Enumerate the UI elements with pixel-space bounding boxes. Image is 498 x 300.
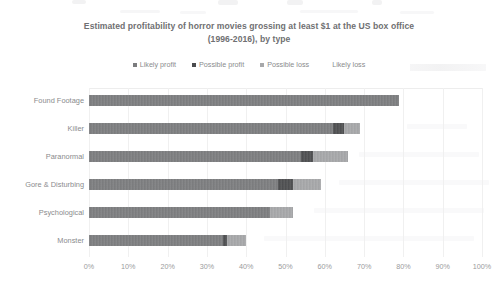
legend-swatch-icon bbox=[133, 63, 137, 67]
bar-segment-possible-profit[interactable] bbox=[278, 179, 294, 190]
bar-segment-likely-profit[interactable] bbox=[89, 235, 223, 246]
chart-title: Estimated profitability of horror movies… bbox=[20, 20, 478, 45]
gridline bbox=[246, 88, 247, 257]
chart-title-line-1: Estimated profitability of horror movies… bbox=[84, 21, 414, 31]
bar-segment-likely-profit[interactable] bbox=[89, 207, 270, 218]
legend-label: Possible loss bbox=[267, 60, 309, 69]
bar-segment-possible-loss[interactable] bbox=[344, 123, 360, 134]
legend-swatch-icon bbox=[192, 63, 196, 67]
x-tick-label: 50% bbox=[278, 262, 292, 271]
bar-segment-likely-profit[interactable] bbox=[89, 95, 399, 106]
x-tick-label: 100% bbox=[473, 262, 491, 271]
bar-segment-likely-profit[interactable] bbox=[89, 151, 301, 162]
bar-segment-possible-loss[interactable] bbox=[227, 235, 247, 246]
bar-segment-possible-loss[interactable] bbox=[270, 207, 294, 218]
gridline bbox=[364, 88, 365, 257]
bar-segment-possible-profit[interactable] bbox=[333, 123, 345, 134]
bar-segment-likely-profit[interactable] bbox=[89, 123, 333, 134]
bar-row[interactable] bbox=[89, 179, 321, 190]
plot-area bbox=[89, 88, 482, 257]
legend-label: Likely profit bbox=[140, 60, 176, 69]
bar-row[interactable] bbox=[89, 235, 246, 246]
bar-row[interactable] bbox=[89, 95, 399, 106]
gridline bbox=[286, 88, 287, 257]
gridline bbox=[482, 88, 483, 257]
gridline bbox=[403, 88, 404, 257]
gridline bbox=[89, 88, 90, 257]
x-tick-label: 80% bbox=[396, 262, 410, 271]
category-label-gore-disturbing: Gore & Disturbing bbox=[0, 180, 84, 189]
x-tick-label: 20% bbox=[160, 262, 174, 271]
x-tick-label: 70% bbox=[357, 262, 371, 271]
x-tick-label: 40% bbox=[239, 262, 253, 271]
x-tick-label: 0% bbox=[84, 262, 94, 271]
bar-row[interactable] bbox=[89, 123, 360, 134]
gridline bbox=[168, 88, 169, 257]
category-label-killer: Killer bbox=[0, 124, 84, 133]
x-tick-label: 60% bbox=[318, 262, 332, 271]
legend-item-possible-loss[interactable]: Possible loss bbox=[260, 60, 309, 69]
x-tick-label: 90% bbox=[435, 262, 449, 271]
legend-item-likely-profit[interactable]: Likely profit bbox=[133, 60, 176, 69]
bar-segment-possible-loss[interactable] bbox=[293, 179, 321, 190]
x-tick-label: 10% bbox=[121, 262, 135, 271]
legend-item-likely-loss[interactable]: Likely loss bbox=[325, 60, 365, 69]
category-label-found-footage: Found Footage bbox=[0, 96, 84, 105]
category-axis: Found FootageKillerParanormalGore & Dist… bbox=[0, 88, 84, 257]
legend-swatch-icon bbox=[260, 63, 264, 67]
legend-label: Likely loss bbox=[332, 60, 365, 69]
chart-legend: Likely profitPossible profitPossible los… bbox=[0, 60, 498, 69]
legend-swatch-icon bbox=[325, 63, 329, 67]
bar-segment-possible-loss[interactable] bbox=[313, 151, 348, 162]
chart-title-line-2: (1996-2016), by type bbox=[20, 33, 478, 46]
bar-row[interactable] bbox=[89, 151, 348, 162]
x-axis-ticks: 0%10%20%30%40%50%60%70%80%90%100% bbox=[89, 262, 482, 274]
gridline bbox=[128, 88, 129, 257]
gridline bbox=[207, 88, 208, 257]
chart-figure: Estimated profitability of horror movies… bbox=[0, 0, 498, 300]
bar-row[interactable] bbox=[89, 207, 293, 218]
x-tick-label: 30% bbox=[200, 262, 214, 271]
category-label-monster: Monster bbox=[0, 236, 84, 245]
bar-segment-possible-profit[interactable] bbox=[301, 151, 313, 162]
category-label-psychological: Psychological bbox=[0, 208, 84, 217]
legend-label: Possible profit bbox=[199, 60, 244, 69]
bar-segment-likely-profit[interactable] bbox=[89, 179, 278, 190]
gridline bbox=[325, 88, 326, 257]
legend-item-possible-profit[interactable]: Possible profit bbox=[192, 60, 244, 69]
gridline bbox=[443, 88, 444, 257]
category-label-paranormal: Paranormal bbox=[0, 152, 84, 161]
